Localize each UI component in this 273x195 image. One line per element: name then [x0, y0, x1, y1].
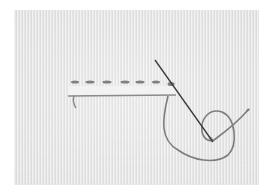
hem-edge-line [68, 95, 176, 96]
embroidery-illustration [0, 0, 273, 195]
thread [164, 96, 248, 160]
thread-tail [73, 96, 76, 108]
running-stitches [71, 81, 175, 87]
